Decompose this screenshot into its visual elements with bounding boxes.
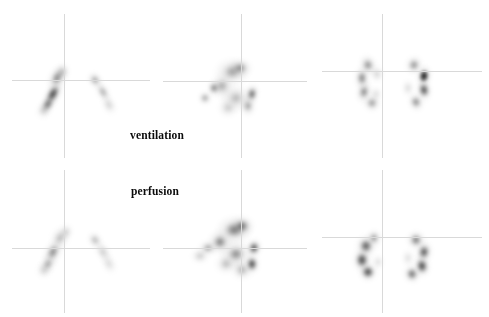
uptake-region <box>403 250 413 266</box>
uptake-region <box>218 99 238 117</box>
crosshair-vertical-line[interactable] <box>241 14 242 158</box>
crosshair-horizontal-line[interactable] <box>163 248 307 249</box>
uptake-region <box>403 80 413 96</box>
uptake-region <box>198 91 212 105</box>
uptake-blob-layer <box>320 10 489 160</box>
uptake-region <box>191 249 209 263</box>
crosshair-vertical-line[interactable] <box>241 170 242 313</box>
crosshair-vertical-line[interactable] <box>382 170 383 313</box>
uptake-region <box>229 215 255 237</box>
uptake-region <box>99 93 119 116</box>
crosshair-horizontal-line[interactable] <box>163 81 307 82</box>
uptake-region <box>99 252 119 275</box>
crosshair-horizontal-line[interactable] <box>12 80 150 81</box>
uptake-region <box>371 87 381 101</box>
scintigraphy-canvas: ventilationperfusion <box>0 0 489 317</box>
perfusion-label: perfusion <box>131 185 179 197</box>
crosshair-vertical-line[interactable] <box>64 170 65 313</box>
ventilation-label: ventilation <box>130 129 184 141</box>
crosshair-horizontal-line[interactable] <box>12 248 150 249</box>
uptake-region <box>366 229 382 247</box>
uptake-blob-layer <box>320 166 489 317</box>
crosshair-vertical-line[interactable] <box>64 14 65 158</box>
uptake-region <box>227 58 253 78</box>
ventilation-panel-anterior[interactable] <box>320 10 489 160</box>
crosshair-horizontal-line[interactable] <box>322 71 482 72</box>
perfusion-panel-coronal[interactable] <box>160 166 320 317</box>
uptake-blob-layer <box>160 166 320 317</box>
perfusion-panel-anterior[interactable] <box>320 166 489 317</box>
crosshair-vertical-line[interactable] <box>382 14 383 158</box>
uptake-region <box>215 254 237 274</box>
uptake-region <box>240 95 256 117</box>
crosshair-horizontal-line[interactable] <box>322 237 482 238</box>
